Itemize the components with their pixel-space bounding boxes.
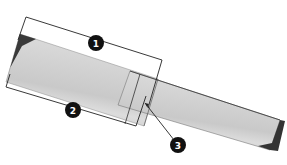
callout-2-label: 2 bbox=[70, 106, 76, 116]
lap-joint-diagram: 1 2 3 bbox=[0, 0, 287, 165]
callout-2: 2 bbox=[65, 102, 81, 118]
right-board bbox=[118, 71, 285, 151]
callout-3-label: 3 bbox=[175, 141, 181, 151]
callout-3: 3 bbox=[170, 137, 186, 153]
callout-1: 1 bbox=[88, 35, 104, 51]
callout-1-label: 1 bbox=[93, 39, 99, 49]
